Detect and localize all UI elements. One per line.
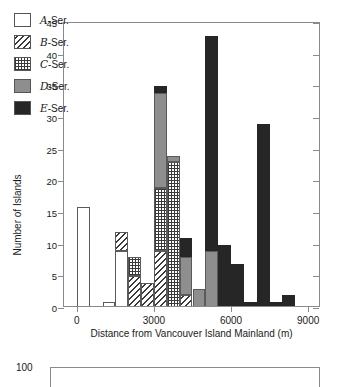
- y-tick: [58, 181, 64, 182]
- bar-segment: [128, 276, 141, 306]
- legend-label-e: E-Ser.: [40, 102, 69, 114]
- y-tick-label: 0: [52, 303, 57, 314]
- bar-segment: [115, 251, 128, 306]
- bar-segment: [115, 232, 128, 251]
- legend-swatch-c: [14, 57, 31, 71]
- plot-area: 051015202530354045 0300060009000: [63, 22, 320, 307]
- bar-segment: [154, 93, 167, 188]
- legend-series-letter: B: [40, 36, 48, 48]
- y-tick-right: [313, 213, 319, 214]
- legend-label-d: D-Ser.: [40, 80, 70, 92]
- y-tick-right: [313, 308, 319, 309]
- y-tick-label: 20: [46, 176, 57, 187]
- legend-label-b: B-Ser.: [40, 36, 69, 48]
- bar-segment: [193, 289, 206, 306]
- bar-segment: [167, 162, 180, 306]
- legend-swatch-d: [14, 79, 31, 93]
- legend-swatch-e: [14, 101, 31, 115]
- y-tick-label: 5: [52, 271, 57, 282]
- legend-swatch-b: [14, 35, 31, 49]
- secondary-y-top-label: 100: [16, 362, 33, 373]
- bar-segment: [257, 124, 270, 306]
- bar-segment: [282, 295, 295, 306]
- x-axis-label: Distance from Vancouver Island Mainland …: [63, 328, 320, 339]
- bar-segment: [180, 238, 193, 257]
- y-tick: [58, 308, 64, 309]
- bar-segment: [141, 283, 154, 306]
- y-tick-label: 15: [46, 208, 57, 219]
- legend-swatch-a: [14, 13, 31, 27]
- y-tick-right: [313, 23, 319, 24]
- y-tick-right: [313, 55, 319, 56]
- legend-item-d[interactable]: D-Ser.: [14, 75, 70, 97]
- y-tick-right: [313, 86, 319, 87]
- plot-inner: [64, 23, 319, 306]
- bar-segment: [231, 264, 244, 306]
- bar-segment: [128, 257, 141, 276]
- y-tick-right: [313, 245, 319, 246]
- x-tick-label: 6000: [220, 315, 242, 326]
- bar-segment: [205, 36, 218, 251]
- y-tick-label: 10: [46, 239, 57, 250]
- legend-series-letter: C: [40, 58, 48, 70]
- y-tick-right: [313, 118, 319, 119]
- legend-item-a[interactable]: A-Ser.: [14, 9, 70, 31]
- legend-item-b[interactable]: B-Ser.: [14, 31, 70, 53]
- bar-segment: [154, 188, 167, 251]
- x-tick: [154, 306, 155, 312]
- y-tick-right: [313, 150, 319, 151]
- legend-series-letter: D: [40, 80, 48, 92]
- x-tick-label: 3000: [143, 315, 165, 326]
- y-tick-right: [313, 276, 319, 277]
- legend-label-a: A-Ser.: [40, 14, 69, 26]
- y-tick: [58, 245, 64, 246]
- x-tick: [77, 306, 78, 312]
- x-tick: [231, 306, 232, 312]
- x-tick: [308, 306, 309, 312]
- x-tick-label: 0: [74, 315, 80, 326]
- y-tick-right: [313, 181, 319, 182]
- legend-item-e[interactable]: E-Ser.: [14, 97, 70, 119]
- y-axis-label: Number of Islands: [12, 174, 23, 255]
- bar-segment: [103, 302, 116, 306]
- bar-segment: [77, 207, 90, 306]
- bar-segment: [154, 251, 167, 306]
- bar-segment: [180, 295, 193, 306]
- chart-legend: A-Ser.B-Ser.C-Ser.D-Ser.E-Ser.: [14, 9, 70, 119]
- x-tick-label: 9000: [297, 315, 319, 326]
- legend-label-c: C-Ser.: [40, 58, 69, 70]
- bar-segment: [218, 245, 231, 306]
- histogram-chart: Number of Islands 051015202530354045 030…: [0, 0, 341, 345]
- bar-segment: [205, 251, 218, 306]
- bar-segment: [180, 257, 193, 295]
- secondary-chart-partial: 100: [0, 345, 341, 376]
- legend-series-letter: A: [40, 14, 48, 26]
- y-tick: [58, 150, 64, 151]
- legend-item-c[interactable]: C-Ser.: [14, 53, 70, 75]
- legend-series-letter: E: [40, 102, 48, 114]
- secondary-plot-area: [50, 367, 320, 387]
- y-tick: [58, 213, 64, 214]
- y-tick-label: 25: [46, 144, 57, 155]
- y-tick: [58, 276, 64, 277]
- bar-segment: [244, 302, 257, 306]
- bar-segment: [270, 302, 283, 306]
